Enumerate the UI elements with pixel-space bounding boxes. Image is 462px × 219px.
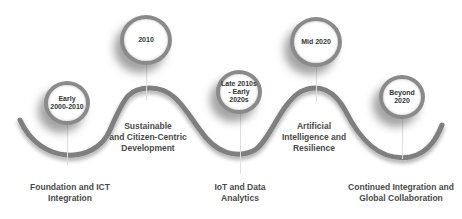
milestone-period-4: Mid 2020 — [301, 38, 331, 46]
milestone-period-5: Beyond 2020 — [389, 89, 415, 105]
stem-line-1 — [67, 125, 68, 165]
milestone-period-2: 2010 — [138, 36, 154, 44]
milestone-marker-3: Late 2010s - Early 2020s — [216, 70, 262, 114]
stem-line-5 — [402, 119, 403, 159]
milestone-marker-2: 2010 — [120, 15, 172, 65]
milestone-marker-1: Early 2000-2010 — [44, 81, 90, 125]
stem-line-3 — [240, 114, 241, 174]
milestone-label-3: IoT and Data Analytics — [192, 182, 288, 204]
milestone-label-2: Sustainable and Citizen-Centric Developm… — [100, 121, 196, 154]
milestone-marker-5: Beyond 2020 — [379, 75, 425, 119]
stem-line-2 — [146, 65, 147, 100]
milestone-label-1: Foundation and ICT Integration — [20, 182, 120, 204]
milestone-label-5: Continued Integration and Global Collabo… — [340, 182, 462, 204]
timeline-diagram: Early 2000-2010 2010 Late 2010s - Early … — [0, 0, 462, 219]
milestone-marker-4: Mid 2020 — [290, 17, 342, 67]
milestone-label-4: Artificial Intelligence and Resilience — [266, 121, 362, 154]
stem-line-4 — [316, 67, 317, 102]
milestone-period-1: Early 2000-2010 — [50, 95, 83, 111]
milestone-period-3: Late 2010s - Early 2020s — [221, 80, 257, 104]
